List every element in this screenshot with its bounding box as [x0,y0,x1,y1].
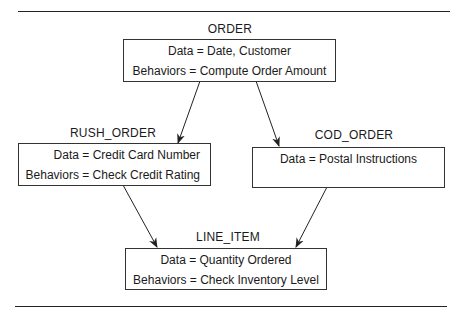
arrow-rush-order-to-line-item [123,185,157,247]
rush-order-behaviors: Behaviors = Check Credit Rating [19,165,200,185]
line-item-class-box: Data = Quantity Ordered Behaviors = Chec… [125,248,327,290]
order-title: ORDER [208,22,252,36]
cod-order-data: Data = Postal Instructions [253,149,444,169]
cod-order-class-box: Data = Postal Instructions [252,147,445,188]
rush-order-class-box: Data = Credit Card Number Behaviors = Ch… [18,143,211,186]
line-item-title: LINE_ITEM [196,230,260,244]
arrow-order-to-cod-order [256,81,279,146]
line-item-behaviors: Behaviors = Check Inventory Level [126,270,326,290]
order-behaviors: Behaviors = Compute Order Amount [124,61,335,81]
arrow-order-to-rush-order [178,81,200,143]
order-data: Data = Date, Customer [124,41,335,61]
line-item-data: Data = Quantity Ordered [126,250,326,270]
rush-order-data: Data = Credit Card Number [19,145,200,165]
order-class-box: Data = Date, Customer Behaviors = Comput… [123,39,336,82]
rush-order-title: RUSH_ORDER [70,126,156,140]
cod-order-title: COD_ORDER [315,128,393,142]
arrow-cod-order-to-line-item [296,187,327,247]
